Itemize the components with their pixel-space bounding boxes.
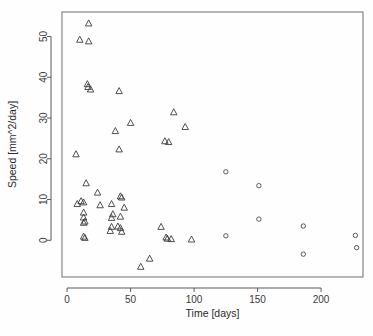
data-point-circle (257, 217, 261, 221)
plot-frame (62, 12, 363, 277)
y-axis-tick-label: 50 (38, 30, 49, 42)
data-point-triangle (121, 204, 127, 210)
x-axis-tick-label: 150 (249, 294, 266, 305)
data-point-triangle (107, 227, 113, 233)
series-circles (224, 170, 359, 257)
data-point-triangle (73, 151, 79, 157)
data-point-circle (301, 224, 305, 228)
data-point-triangle (116, 88, 122, 94)
data-point-triangle (138, 263, 144, 269)
data-point-circle (301, 252, 305, 256)
data-point-circle (353, 233, 357, 237)
data-point-triangle (117, 213, 123, 219)
data-point-triangle (108, 214, 114, 220)
data-point-circle (224, 234, 228, 238)
data-point-triangle (127, 119, 133, 125)
scatter-plot-figure: 050100150200 01020304050 Time [days] Spe… (0, 0, 373, 336)
chart-canvas: 050100150200 01020304050 Time [days] Spe… (0, 0, 373, 336)
y-axis-title: Speed [mm^2/day] (6, 101, 18, 188)
data-point-circle (257, 183, 261, 187)
data-point-triangle (108, 201, 114, 207)
data-point-triangle (83, 180, 89, 186)
data-points-layer (73, 20, 359, 269)
x-axis-title: Time [days] (186, 307, 240, 319)
x-axis-tick-label: 200 (313, 294, 330, 305)
data-point-triangle (171, 109, 177, 115)
data-point-circle (224, 170, 228, 174)
data-point-triangle (188, 236, 194, 242)
y-axis: 01020304050 (38, 30, 51, 243)
x-axis-tick-label: 0 (64, 294, 70, 305)
data-point-triangle (116, 146, 122, 152)
x-axis-tick-label: 100 (186, 294, 203, 305)
x-axis: 050100150200 (64, 288, 330, 305)
data-point-triangle (158, 223, 164, 229)
data-point-triangle (146, 255, 152, 261)
data-point-triangle (97, 202, 103, 208)
y-axis-tick-label: 20 (38, 153, 49, 165)
data-point-triangle (77, 36, 83, 42)
data-point-triangle (85, 20, 91, 26)
y-axis-tick-label: 40 (38, 71, 49, 83)
data-point-triangle (112, 128, 118, 134)
data-point-triangle (94, 189, 100, 195)
plot-border (62, 12, 363, 277)
data-point-triangle (182, 123, 188, 129)
x-axis-tick-label: 50 (125, 294, 137, 305)
y-axis-tick-label: 10 (38, 194, 49, 206)
data-point-triangle (85, 38, 91, 44)
series-triangles (73, 20, 195, 269)
y-axis-tick-label: 0 (38, 237, 49, 243)
data-point-circle (354, 245, 358, 249)
y-axis-tick-label: 30 (38, 112, 49, 124)
